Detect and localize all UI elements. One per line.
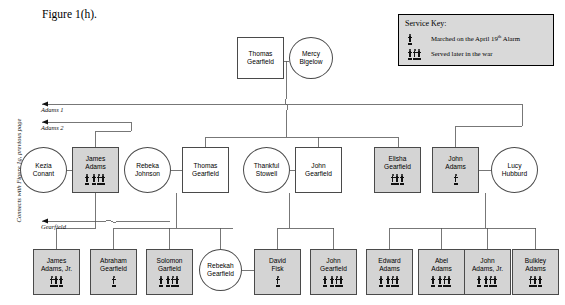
- service-icons-edward-adams: [379, 275, 400, 287]
- person-node-rebekah-gearfield[interactable]: Rebekah Gearfield: [199, 249, 242, 291]
- arrow-label-adams-1: Adams 1: [41, 106, 64, 113]
- single-soldier-icon: [159, 269, 163, 287]
- person-node-kezia-conant[interactable]: Kezia Conant: [20, 147, 67, 193]
- service-icons-abraham-gearfield: [112, 275, 116, 287]
- triple-soldier-icon: [484, 269, 498, 287]
- single-soldier-icon: [379, 269, 383, 287]
- person-node-elisha-gearfield[interactable]: Elisha Gearfield: [374, 147, 421, 193]
- person-node-lucy-hubburd[interactable]: Lucy Hubburd: [491, 147, 538, 193]
- figure-caption: Figure 1(h).: [42, 8, 97, 20]
- service-key-label-marched: Marched on the April 19th Alarm: [431, 34, 520, 42]
- person-node-mercy-bigelow[interactable]: Mercy Bigelow: [289, 37, 333, 79]
- person-node-john-gearfield-2[interactable]: John Gearfield: [310, 249, 357, 295]
- person-node-thankful-stowell[interactable]: Thankful Stowell: [243, 147, 290, 193]
- person-name-rebeka-johnson: Rebeka Johnson: [135, 162, 160, 178]
- service-key-label-marched-suffix: Alarm: [501, 36, 520, 43]
- single-soldier-icon: [112, 269, 116, 287]
- person-node-thomas-gearfield-jr[interactable]: Thomas Gearfield: [182, 147, 229, 193]
- person-name-thomas-gearfield-sr: Thomas Gearfield: [247, 50, 274, 66]
- single-soldier-icon: [454, 167, 458, 185]
- single-soldier-icon: [85, 167, 89, 185]
- person-name-kezia-conant: Kezia Conant: [33, 162, 54, 178]
- triple-soldier-icon: [405, 47, 431, 60]
- triple-soldier-icon: [330, 269, 344, 287]
- person-node-solomon-garfield[interactable]: Solomon Garfield: [146, 249, 193, 295]
- arrow-label-adams-2: Adams 2: [41, 124, 64, 131]
- person-node-john-adams-jr[interactable]: John Adams, Jr.: [464, 249, 511, 295]
- service-icons-solomon-garfield: [159, 275, 180, 287]
- service-icons-bulkley-adams: [529, 275, 543, 287]
- service-key-title: Service Key:: [405, 19, 548, 28]
- service-icons-david-fisk: [276, 275, 280, 287]
- service-icons-john-adams: [454, 173, 458, 185]
- person-name-john-gearfield: John Gearfield: [305, 162, 332, 178]
- person-node-thomas-gearfield-sr[interactable]: Thomas Gearfield: [237, 37, 284, 79]
- service-icons-james-adams-jr: [50, 275, 64, 287]
- triple-soldier-icon: [92, 167, 106, 185]
- single-soldier-icon: [276, 269, 280, 287]
- person-name-rebekah-gearfield: Rebekah Gearfield: [207, 262, 234, 278]
- triple-soldier-icon: [529, 269, 543, 287]
- triple-soldier-icon: [386, 269, 400, 287]
- triple-soldier-icon: [166, 269, 180, 287]
- service-icons-john-adams-jr: [477, 275, 498, 287]
- person-node-john-gearfield[interactable]: John Gearfield: [295, 147, 342, 193]
- person-node-bulkley-adams[interactable]: Bulkley Adams: [512, 249, 559, 295]
- person-node-james-adams[interactable]: James Adams: [72, 147, 119, 193]
- person-node-rebeka-johnson[interactable]: Rebeka Johnson: [124, 147, 171, 193]
- service-key-label-marched-prefix: Marched on the April 19: [431, 36, 498, 43]
- person-name-thankful-stowell: Thankful Stowell: [254, 162, 279, 178]
- person-name-mercy-bigelow: Mercy Bigelow: [299, 50, 322, 66]
- person-node-abraham-gearfield[interactable]: Abraham Gearfield: [90, 249, 137, 295]
- person-name-lucy-hubburd: Lucy Hubburd: [502, 162, 527, 178]
- service-icons-john-gearfield-2: [323, 275, 344, 287]
- genealogy-figure-page: Figure 1(h). Connects with Figure 1g, pr…: [0, 0, 565, 305]
- single-soldier-icon: [431, 269, 435, 287]
- person-node-james-adams-jr[interactable]: James Adams, Jr.: [33, 249, 80, 295]
- single-soldier-icon: [323, 269, 327, 287]
- service-key-entry-served: Served later in the war: [405, 46, 548, 61]
- person-node-edward-adams[interactable]: Edward Adams: [366, 249, 413, 295]
- person-node-abel-adams[interactable]: Abel Adams: [418, 249, 465, 295]
- person-name-thomas-gearfield-jr: Thomas Gearfield: [192, 162, 219, 178]
- arrow-label-gearfield: Gearfield: [41, 223, 66, 230]
- service-key-label-served: Served later in the war: [431, 50, 493, 57]
- triple-soldier-icon: [438, 269, 452, 287]
- service-key-entry-marched: Marched on the April 19th Alarm: [405, 31, 548, 46]
- service-icons-elisha-gearfield: [391, 173, 405, 185]
- service-icons-james-adams: [85, 173, 106, 185]
- service-key-legend: Service Key: Marched on the April 19th A…: [398, 14, 554, 66]
- triple-soldier-icon: [50, 269, 64, 287]
- single-soldier-icon: [477, 269, 481, 287]
- service-icons-abel-adams: [431, 275, 452, 287]
- person-node-david-fisk[interactable]: David Fisk: [254, 249, 301, 295]
- person-node-john-adams[interactable]: John Adams: [432, 147, 479, 193]
- triple-soldier-icon: [391, 167, 405, 185]
